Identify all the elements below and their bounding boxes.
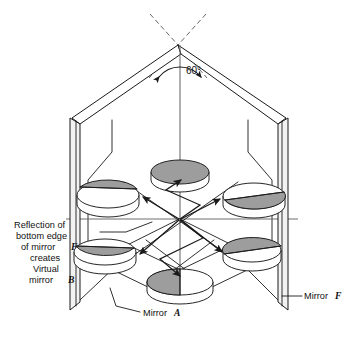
mirror-a-label-text: Mirror [143,308,167,318]
mirror-f-label-italic: F [334,290,342,301]
ray-to-lower-left [140,220,179,254]
left-note-line-4: creates [30,253,61,263]
figure-root: 60° Reflection of bottom edge of mirror … [0,0,350,337]
disc-lower-left [74,239,136,274]
disc-upper-right [223,183,286,218]
left-note-line-5: Virtual [33,264,59,274]
mirror-f-label-text: Mirror [304,291,328,301]
ray-to-lower-right [181,220,222,252]
angle-label: 60° [186,65,201,76]
mirror-a-label: Mirror A [143,307,180,318]
mirror-f-top-face [178,45,286,124]
mirror-a-label-italic: A [173,307,180,318]
mirror-panels-upper [72,45,286,124]
ray-arrows [140,180,222,276]
disc-top-center [151,160,209,192]
disc-upper-left [77,180,139,217]
left-note-line-2: bottom edge [16,231,67,241]
ray-to-upper-left [143,197,179,219]
disc-lower-right [222,238,281,271]
mirror-f-edge [278,118,288,310]
left-note-line-3: of mirror [21,242,55,252]
left-note-line-6: mirror [29,275,53,285]
ray-to-upper-right [181,199,220,219]
kaleidoscope-mirror-diagram: 60° Reflection of bottom edge of mirror … [0,0,350,337]
left-note-block: Reflection of bottom edge of mirror F cr… [14,220,78,285]
ray-zigzag-to-bottom-center [160,220,203,276]
left-note-italic-f: F [70,241,78,252]
leader-left-note [100,222,152,232]
mirror-a-top-face [72,45,181,124]
left-note-italic-b: B [67,274,75,285]
mirror-f-label: Mirror F [304,290,342,301]
dash-upper-right [178,14,206,45]
left-note-line-1: Reflection of [14,220,66,230]
disc-bottom-center [147,269,213,304]
dash-upper-left [150,14,178,45]
mirror-f-slab [278,118,288,310]
leader-mirror-a [110,288,140,312]
